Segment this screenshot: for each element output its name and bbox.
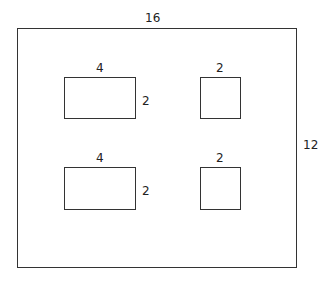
rect-bottom-right: [200, 167, 241, 210]
outer-width-label: 16: [145, 12, 160, 24]
rect-bottom-left-width-label: 4: [96, 152, 104, 164]
rect-top-left-height-label: 2: [142, 95, 150, 107]
rect-top-left: [64, 77, 136, 119]
outer-height-label: 12: [303, 139, 318, 151]
rect-top-right: [200, 77, 241, 119]
outer-rectangle: [17, 28, 297, 268]
rect-top-left-width-label: 4: [96, 62, 104, 74]
rect-bottom-left-height-label: 2: [142, 185, 150, 197]
rect-bottom-left: [64, 167, 136, 210]
rect-top-right-width-label: 2: [216, 62, 224, 74]
rect-bottom-right-width-label: 2: [216, 152, 224, 164]
